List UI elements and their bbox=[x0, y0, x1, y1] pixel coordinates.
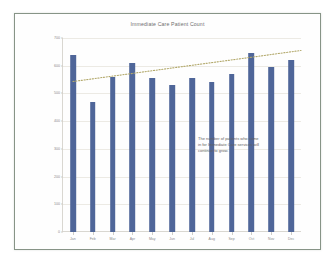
y-tick-label: 200 bbox=[54, 175, 60, 179]
x-tick-mark bbox=[291, 232, 292, 235]
bar-slot: Oct bbox=[242, 38, 262, 232]
bar[interactable] bbox=[90, 102, 96, 232]
x-tick-label: Jan bbox=[70, 237, 76, 241]
x-tick-mark bbox=[93, 232, 94, 235]
bar[interactable] bbox=[209, 82, 215, 232]
y-tick-label: 700 bbox=[54, 36, 60, 40]
bar[interactable] bbox=[189, 78, 195, 232]
bar-slot: Aug bbox=[202, 38, 222, 232]
x-tick-mark bbox=[192, 232, 193, 235]
x-tick-label: Oct bbox=[249, 237, 254, 241]
bar-slot: Mar bbox=[103, 38, 123, 232]
bar-slot: Dec bbox=[281, 38, 301, 232]
x-tick-label: Aug bbox=[209, 237, 215, 241]
x-tick-mark bbox=[212, 232, 213, 235]
x-tick-label: May bbox=[149, 237, 156, 241]
bar[interactable] bbox=[110, 77, 116, 232]
bar[interactable] bbox=[70, 55, 76, 232]
plot-area: 0100200300400500600700 JanFebMarAprMayJu… bbox=[63, 38, 301, 232]
bar-slot: Nov bbox=[261, 38, 281, 232]
bar[interactable] bbox=[169, 85, 175, 232]
y-tick-label: 500 bbox=[54, 91, 60, 95]
x-tick-label: Sep bbox=[228, 237, 234, 241]
bar-slot: Apr bbox=[123, 38, 143, 232]
x-tick-label: Jun bbox=[169, 237, 175, 241]
x-tick-mark bbox=[73, 232, 74, 235]
x-tick-mark bbox=[172, 232, 173, 235]
y-tick-label: 100 bbox=[54, 202, 60, 206]
x-tick-mark bbox=[271, 232, 272, 235]
x-tick-label: Jul bbox=[190, 237, 194, 241]
y-tick-label: 600 bbox=[54, 64, 60, 68]
x-tick-mark bbox=[113, 232, 114, 235]
x-tick-label: Dec bbox=[288, 237, 294, 241]
bars-group: JanFebMarAprMayJunJulAugSepOctNovDec bbox=[63, 38, 301, 232]
bar[interactable] bbox=[130, 63, 136, 232]
bar-slot: Feb bbox=[83, 38, 103, 232]
growth-note-annotation: The number of patients who come in for I… bbox=[198, 136, 296, 154]
y-tick-label: 0 bbox=[58, 230, 60, 234]
x-tick-mark bbox=[251, 232, 252, 235]
chart-container[interactable]: Immediate Care Patient Count 01002003004… bbox=[15, 14, 320, 249]
x-tick-label: Mar bbox=[110, 237, 116, 241]
chart-title: Immediate Care Patient Count bbox=[15, 21, 320, 27]
x-tick-label: Nov bbox=[268, 237, 274, 241]
bar[interactable] bbox=[149, 78, 155, 232]
x-tick-mark bbox=[232, 232, 233, 235]
x-tick-mark bbox=[152, 232, 153, 235]
bar-slot: May bbox=[142, 38, 162, 232]
x-tick-label: Feb bbox=[90, 237, 96, 241]
bar-slot: Sep bbox=[222, 38, 242, 232]
growth-note-line-3: continue to grow. bbox=[198, 148, 296, 154]
y-tick-label: 300 bbox=[54, 147, 60, 151]
bar-slot: Jul bbox=[182, 38, 202, 232]
bar-slot: Jun bbox=[162, 38, 182, 232]
x-tick-mark bbox=[132, 232, 133, 235]
bar-slot: Jan bbox=[63, 38, 83, 232]
slide-frame: Immediate Care Patient Count 01002003004… bbox=[14, 13, 321, 250]
y-tick-label: 400 bbox=[54, 119, 60, 123]
x-tick-label: Apr bbox=[130, 237, 135, 241]
